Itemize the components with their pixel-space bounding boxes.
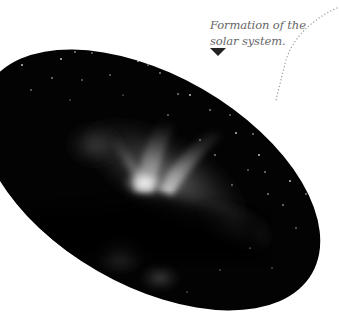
caption-line-1: Formation of the (210, 17, 306, 33)
caption-line-2: solar system. (210, 33, 306, 49)
down-triangle-icon (210, 48, 226, 56)
caption: Formation of the solar system. (210, 17, 306, 49)
